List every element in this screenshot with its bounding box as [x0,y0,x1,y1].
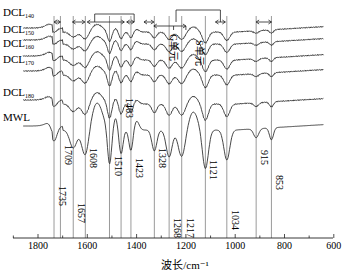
ftir-spectra-chart: DCL140DCL150DCL160DCL170DCL180MWL 173517… [0,0,351,274]
series-label: DCL180 [3,86,34,99]
series-label: DCL160 [3,37,34,50]
peak-label: 1709 [63,145,74,165]
spectrum-trace-DCL180 [23,92,323,120]
peak-label: 1657 [76,203,87,223]
x-tick-label: 1000 [225,240,245,251]
peak-label: 1217 [185,218,196,238]
series-label: DCL170 [3,53,34,66]
series-label: MWL [3,111,30,123]
range-brackets [54,10,271,30]
peak-label: 1034 [230,210,241,230]
x-tick-label: 1200 [176,240,196,251]
peak-label: 1608 [88,148,99,168]
x-axis-label: 波长/cm⁻¹ [161,259,209,271]
peak-label: 1735 [57,186,68,206]
spectrum-trace-DCL170 [23,66,323,88]
peak-label: 1328 [157,148,168,168]
g-unit-label: G单元 [168,34,179,61]
s-unit-label: S单元 [194,40,205,66]
peak-label: 1463 [124,98,135,118]
series-labels: DCL140DCL150DCL160DCL170DCL180MWL [3,6,34,123]
series-label: DCL140 [3,6,34,19]
peak-label: 915 [259,150,270,165]
peak-label: 1268 [172,218,183,238]
series-label: DCL150 [3,23,34,36]
x-tick-label: 800 [277,240,292,251]
x-tick-label: 1400 [127,240,147,251]
peak-label: 853 [274,175,285,190]
peak-label: 1423 [134,158,145,178]
peak-label: 1121 [208,160,219,180]
x-tick-label: 600 [326,240,341,251]
peak-label: 1510 [113,156,124,176]
x-tick-label: 1800 [28,240,48,251]
x-tick-label: 1600 [77,240,97,251]
